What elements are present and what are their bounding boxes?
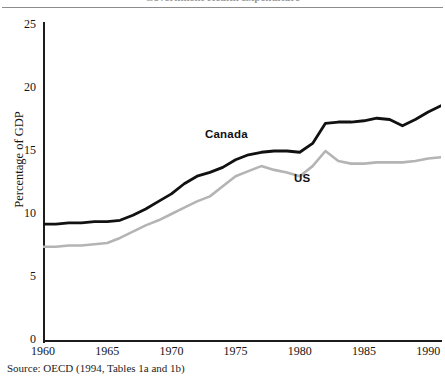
series-label-us: US — [294, 172, 310, 184]
series-line-us — [43, 151, 441, 247]
x-tick-label-1985: 1985 — [344, 345, 384, 357]
cut-off-title-strip: Government Health Expenditure — [0, 0, 445, 7]
source-note: Source: OECD (1994, Tables 1a and 1b) — [7, 362, 185, 374]
y-tick-label-20: 20 — [6, 81, 36, 93]
series-line-canada — [43, 106, 441, 224]
series-label-canada: Canada — [205, 128, 248, 140]
x-tick-label-1975: 1975 — [216, 345, 256, 357]
x-tick-label-1960: 1960 — [23, 345, 63, 357]
figure-title: Government Health Expenditure — [0, 0, 445, 3]
x-tick-label-1965: 1965 — [87, 345, 127, 357]
y-tick-label-10: 10 — [6, 207, 36, 219]
x-tick-label-1990: 1990 — [408, 345, 445, 357]
y-tick-label-25: 25 — [6, 18, 36, 30]
chart-canvas — [43, 25, 441, 340]
y-tick-label-15: 15 — [6, 144, 36, 156]
header-divider — [2, 7, 443, 8]
y-tick-label-5: 5 — [6, 270, 36, 282]
plot-area — [43, 25, 441, 340]
x-axis-line — [43, 340, 442, 342]
x-tick-label-1970: 1970 — [151, 345, 191, 357]
x-tick-label-1980: 1980 — [280, 345, 320, 357]
